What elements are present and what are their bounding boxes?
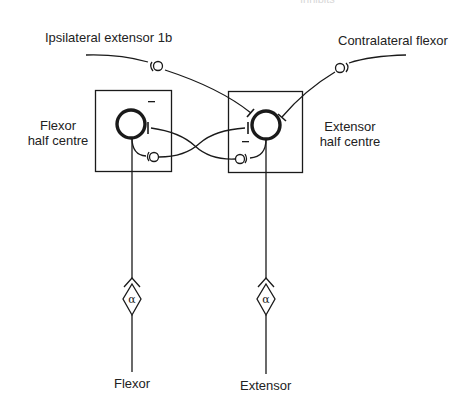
- ipsilateral-synapse-icon: [151, 62, 153, 71]
- flexor-half-centre-box: [96, 91, 172, 172]
- flexor-alpha-symbol: α: [128, 293, 136, 306]
- flexor-alpha-chevron-icon: [124, 278, 140, 287]
- extensor-cross-fibre: [151, 128, 235, 159]
- flexor-to-extensor-path: [132, 138, 146, 156]
- flexor-inhibitory-sign-icon: [148, 101, 155, 102]
- extensor-alpha-symbol: α: [262, 293, 270, 306]
- ipsilateral-interneuron-icon: [154, 62, 163, 71]
- extensor-interneuron-icon: [236, 155, 245, 164]
- extensor-to-flexor-path: [250, 139, 266, 158]
- extensor-alpha-chevron-icon: [258, 278, 274, 287]
- extensor-neuron-icon: [252, 111, 280, 139]
- contralateral-fibre: [349, 55, 406, 63]
- contralateral-synapse-icon: [346, 63, 348, 72]
- flexor-interneuron-synapse-icon: [148, 152, 150, 161]
- ipsilateral-fibre: [86, 55, 148, 62]
- flexor-interneuron-icon: [150, 153, 159, 162]
- flexor-neuron-icon: [117, 110, 145, 138]
- half-centre-diagram: α α: [0, 0, 458, 403]
- extensor-interneuron-synapse-icon: [245, 154, 247, 163]
- extensor-inhibitory-sign-icon: [242, 141, 249, 142]
- contralateral-interneuron-icon: [336, 64, 345, 73]
- contralateral-fibre-2: [282, 72, 335, 117]
